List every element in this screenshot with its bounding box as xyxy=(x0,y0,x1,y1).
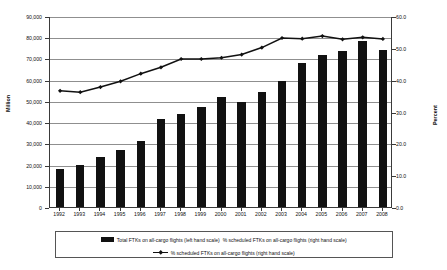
x-axis-tick-label: 1995 xyxy=(114,211,126,217)
line-marker xyxy=(139,72,143,76)
y-axis-right-title: Percent xyxy=(432,105,438,125)
line-marker xyxy=(78,90,82,94)
x-axis-tick-label: 2006 xyxy=(336,211,348,217)
y-axis-right-tick-label: 0.0 xyxy=(396,205,432,211)
x-axis-tick-label: 1996 xyxy=(134,211,146,217)
legend-row-1: Total FTKs on all-cargo flights (left ha… xyxy=(56,233,392,246)
y-axis-left-tick-label: 10,000 xyxy=(0,184,42,190)
legend-entry-pct-scheduled-top: % scheduled FTKs on all-cargo flights (r… xyxy=(223,237,347,243)
x-axis-tick-mark xyxy=(120,208,121,211)
x-axis-tick-mark xyxy=(281,208,282,211)
y-axis-left-tick-label: 50,000 xyxy=(0,99,42,105)
legend-entry-pct-scheduled-line: % scheduled FTKs on all-cargo flights (r… xyxy=(153,250,294,256)
y-axis-right-tick-label: 30.0 xyxy=(396,110,432,116)
y-axis-left-tick-label: 60,000 xyxy=(0,78,42,84)
x-axis-tick-label: 1993 xyxy=(73,211,85,217)
line-marker xyxy=(179,57,183,61)
y-axis-right-tick-label: 10.0 xyxy=(396,173,432,179)
line-marker xyxy=(340,37,344,41)
x-axis-tick-mark xyxy=(79,208,80,211)
x-axis-tick-mark xyxy=(59,208,60,211)
x-axis-tick-label: 1997 xyxy=(154,211,166,217)
x-axis-tick-mark xyxy=(301,208,302,211)
y-axis-left-tick-label: 80,000 xyxy=(0,35,42,41)
line-marker xyxy=(300,37,304,41)
x-axis-tick-mark xyxy=(99,208,100,211)
bar-swatch-icon xyxy=(101,237,114,242)
x-axis-tick-label: 1998 xyxy=(174,211,186,217)
chart-figure: Million Percent 010,00020,00030,00040,00… xyxy=(0,0,447,270)
x-axis-tick-label: 2002 xyxy=(255,211,267,217)
y-axis-left-tick-label: 70,000 xyxy=(0,56,42,62)
x-axis-tick-mark xyxy=(241,208,242,211)
legend-label-total-ftks: Total FTKs on all-cargo flights (left ha… xyxy=(117,237,220,243)
y-axis-left-tick-mark xyxy=(45,208,49,209)
x-axis-tick-label: 1999 xyxy=(195,211,207,217)
line-marker xyxy=(361,35,365,39)
x-axis-tick-mark xyxy=(221,208,222,211)
x-axis-tick-mark xyxy=(200,208,201,211)
legend-label-pct-scheduled-line: % scheduled FTKs on all-cargo flights (r… xyxy=(171,250,295,256)
line-marker-swatch-icon xyxy=(153,250,168,256)
line-marker xyxy=(58,89,62,93)
x-axis-tick-label: 2008 xyxy=(376,211,388,217)
legend-row-2: % scheduled FTKs on all-cargo flights (r… xyxy=(56,246,392,259)
x-axis-tick-mark xyxy=(362,208,363,211)
x-axis-tick-label: 1992 xyxy=(53,211,65,217)
x-axis-tick-label: 2003 xyxy=(275,211,287,217)
chart-legend: Total FTKs on all-cargo flights (left ha… xyxy=(55,231,393,258)
line-marker xyxy=(98,85,102,89)
x-axis-tick-label: 1994 xyxy=(94,211,106,217)
y-axis-left-tick-label: 0 xyxy=(0,205,42,211)
y-axis-left-tick-label: 20,000 xyxy=(0,163,42,169)
x-axis-tick-mark xyxy=(382,208,383,211)
x-axis-tick-label: 2004 xyxy=(295,211,307,217)
line-marker xyxy=(320,34,324,38)
legend-label-pct-scheduled-top: % scheduled FTKs on all-cargo flights (r… xyxy=(223,237,347,243)
line-marker xyxy=(240,52,244,56)
x-axis-tick-mark xyxy=(160,208,161,211)
x-axis-tick-mark xyxy=(140,208,141,211)
x-axis-tick-label: 2000 xyxy=(215,211,227,217)
x-axis-tick-mark xyxy=(342,208,343,211)
y-axis-left-tick-label: 40,000 xyxy=(0,120,42,126)
line-series xyxy=(50,17,393,208)
y-axis-right-tick-label: 20.0 xyxy=(396,141,432,147)
line-marker xyxy=(119,79,123,83)
percent-line xyxy=(60,36,383,92)
legend-entry-total-ftks: Total FTKs on all-cargo flights (left ha… xyxy=(101,237,219,243)
plot-area xyxy=(49,17,392,208)
x-axis-tick-mark xyxy=(321,208,322,211)
line-marker xyxy=(381,37,385,41)
y-axis-right-tick-label: 40.0 xyxy=(396,78,432,84)
x-axis-tick-mark xyxy=(180,208,181,211)
line-marker xyxy=(199,57,203,61)
y-axis-right-tick-label: 60.0 xyxy=(396,14,432,20)
y-axis-left-tick-label: 30,000 xyxy=(0,141,42,147)
y-axis-left-tick-label: 90,000 xyxy=(0,14,42,20)
line-marker xyxy=(219,56,223,60)
x-axis-tick-label: 2007 xyxy=(356,211,368,217)
x-axis-tick-mark xyxy=(261,208,262,211)
line-marker xyxy=(159,65,163,69)
x-axis-tick-label: 2005 xyxy=(316,211,328,217)
y-axis-right-tick-label: 50.0 xyxy=(396,46,432,52)
y-axis-right-tick-mark xyxy=(392,208,396,209)
x-axis-tick-label: 2001 xyxy=(235,211,247,217)
